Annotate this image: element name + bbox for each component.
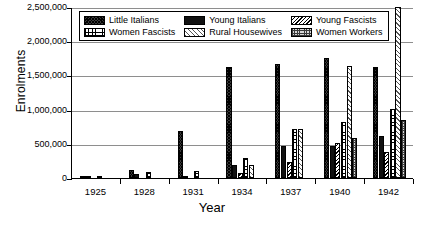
bar-young-italians-1942 — [379, 136, 384, 178]
legend-swatch-icon — [291, 16, 312, 25]
x-tick-mark — [315, 179, 316, 184]
bar-young-fascists-1940 — [335, 143, 340, 178]
bar-women-fascists-1940 — [341, 122, 346, 178]
bar-women-fascists-1928 — [146, 172, 151, 178]
y-tick-label: 1,500,000 — [0, 70, 67, 80]
bar-young-fascists-1937 — [287, 162, 292, 178]
y-tick-mark — [67, 179, 72, 180]
legend-item-young-italians: Young Italians — [184, 15, 282, 25]
bar-little-italians-1931 — [178, 131, 183, 178]
x-tick-mark — [218, 179, 219, 184]
legend-swatch-icon — [184, 16, 205, 25]
legend-item-little-italians: Little Italians — [84, 15, 175, 25]
legend-swatch-icon — [84, 16, 105, 25]
bar-rural-housewives-1937 — [298, 129, 303, 178]
y-tick-label: 500,000 — [0, 139, 67, 149]
gridline — [72, 145, 413, 146]
chart-legend: Little ItaliansYoung ItaliansYoung Fasci… — [79, 11, 389, 41]
legend-item-women-workers: Women Workers — [291, 27, 383, 37]
x-tick-mark — [169, 179, 170, 184]
legend-label: Little Italians — [109, 15, 159, 25]
bar-young-fascists-1942 — [384, 152, 389, 178]
gridline — [72, 111, 413, 112]
y-tick-label: 2,000,000 — [0, 36, 67, 46]
legend-label: Women Workers — [316, 27, 383, 37]
bar-women-fascists-1942 — [390, 109, 395, 178]
bar-rural-housewives-1934 — [249, 165, 254, 178]
legend-item-women-fascists: Women Fascists — [84, 27, 175, 37]
legend-item-rural-housewives: Rural Housewives — [184, 27, 282, 37]
bar-young-italians-1934 — [232, 165, 237, 178]
bar-young-fascists-1934 — [238, 173, 243, 178]
legend-label: Women Fascists — [109, 27, 175, 37]
legend-swatch-icon — [84, 28, 105, 37]
x-tick-mark — [413, 179, 414, 184]
bar-young-italians-1937 — [281, 146, 286, 178]
legend-item-young-fascists: Young Fascists — [291, 15, 383, 25]
x-tick-mark — [266, 179, 267, 184]
bar-little-italians-1940 — [324, 58, 329, 178]
bar-women-fascists-1931 — [194, 171, 199, 178]
bar-young-italians-1928 — [134, 174, 139, 178]
enrolments-bar-chart: Enrolments 0500,0001,000,0001,500,0002,0… — [0, 0, 424, 230]
gridline — [72, 42, 413, 43]
bar-little-italians-1925 — [80, 176, 85, 178]
gridline — [72, 76, 413, 77]
y-tick-label: 0 — [0, 173, 67, 183]
bar-women-fascists-1934 — [243, 158, 248, 178]
bar-little-italians-1937 — [275, 64, 280, 178]
bar-women-workers-1942 — [401, 120, 406, 178]
legend-swatch-icon — [291, 28, 312, 37]
bar-little-italians-1934 — [226, 67, 231, 178]
bar-young-italians-1925 — [85, 176, 90, 178]
bar-women-workers-1940 — [352, 138, 357, 178]
bar-rural-housewives-1940 — [347, 66, 352, 178]
bar-rural-housewives-1942 — [395, 7, 400, 178]
bar-young-italians-1931 — [183, 176, 188, 178]
legend-label: Rural Housewives — [209, 27, 282, 37]
x-tick-mark — [120, 179, 121, 184]
bar-young-italians-1940 — [330, 146, 335, 178]
y-tick-label: 1,000,000 — [0, 105, 67, 115]
gridline — [72, 8, 413, 9]
bar-women-fascists-1937 — [292, 129, 297, 178]
x-tick-mark — [364, 179, 365, 184]
legend-label: Young Italians — [209, 15, 265, 25]
bar-little-italians-1942 — [373, 67, 378, 178]
bar-women-fascists-1925 — [97, 176, 102, 178]
legend-swatch-icon — [184, 28, 205, 37]
x-tick-label: 1942 — [359, 186, 419, 197]
y-tick-label: 2,500,000 — [0, 2, 67, 12]
legend-label: Young Fascists — [316, 15, 377, 25]
x-axis-label: Year — [0, 200, 424, 215]
bar-little-italians-1928 — [129, 170, 134, 178]
